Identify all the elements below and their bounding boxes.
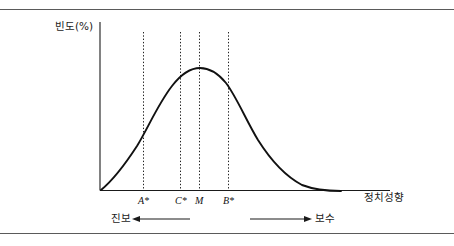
distribution-curve (101, 68, 341, 191)
x-tick-label-a-star: A* (138, 196, 149, 206)
y-axis-label: 빈도(%) (55, 21, 93, 32)
right-pole-label: 보수 (315, 213, 335, 224)
right-arrow-icon (304, 216, 312, 222)
x-tick-label-c-star: C* (175, 196, 187, 206)
distribution-plot (0, 0, 454, 246)
x-axis-label: 정치성향 (364, 192, 404, 203)
x-tick-label-b-star: B* (223, 196, 234, 206)
left-pole-label: 진보 (111, 213, 131, 224)
figure-container: 빈도(%) 정치성향 진보 보수 A* C* M B* (0, 0, 454, 246)
x-tick-label-m: M (195, 196, 203, 206)
left-arrow-icon (132, 216, 140, 222)
